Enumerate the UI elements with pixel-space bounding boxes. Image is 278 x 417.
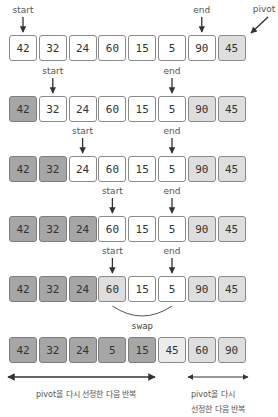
array-cell: 32 <box>39 96 67 122</box>
end-label: end <box>164 66 181 76</box>
swap-label: swap <box>131 321 153 331</box>
array-cell: 45 <box>158 337 186 363</box>
array-cell: 90 <box>188 276 216 302</box>
quicksort-partition-diagram: 423224601559045startendpivot423224601559… <box>0 0 278 417</box>
array-cell: 15 <box>128 96 156 122</box>
array-cell: 90 <box>188 216 216 242</box>
array-cell: 90 <box>218 337 246 363</box>
end-label: end <box>164 126 181 136</box>
array-cell: 24 <box>69 337 97 363</box>
array-cell: 42 <box>9 156 37 182</box>
array-cell: 32 <box>39 156 67 182</box>
array-cell: 90 <box>188 156 216 182</box>
array-cell: 15 <box>128 337 156 363</box>
array-cell: 42 <box>9 96 37 122</box>
start-label: start <box>13 5 34 15</box>
array-cell: 90 <box>188 35 216 61</box>
start-label: start <box>102 186 123 196</box>
end-label: end <box>164 186 181 196</box>
array-cell: 60 <box>98 35 126 61</box>
array-cell: 24 <box>69 96 97 122</box>
array-cell: 15 <box>128 276 156 302</box>
array-cell: 24 <box>69 156 97 182</box>
array-cell: 32 <box>39 35 67 61</box>
array-cell: 5 <box>158 156 186 182</box>
start-label: start <box>102 246 123 256</box>
array-cell: 5 <box>158 276 186 302</box>
array-cell: 45 <box>218 35 246 61</box>
array-cell: 24 <box>69 35 97 61</box>
array-cell: 24 <box>69 276 97 302</box>
array-cell: 45 <box>218 276 246 302</box>
array-cell: 42 <box>9 216 37 242</box>
array-cell: 5 <box>98 337 126 363</box>
array-cell: 5 <box>158 96 186 122</box>
array-cell: 24 <box>69 216 97 242</box>
array-cell: 45 <box>218 156 246 182</box>
array-cell: 45 <box>218 96 246 122</box>
array-cell: 32 <box>39 216 67 242</box>
array-cell: 15 <box>128 216 156 242</box>
right-repeat-note-line1: pivot을 다시 <box>191 387 235 402</box>
array-cell: 42 <box>9 276 37 302</box>
array-cell: 42 <box>9 35 37 61</box>
swap-arc-icon <box>112 306 172 316</box>
end-label: end <box>164 246 181 256</box>
array-cell: 42 <box>9 337 37 363</box>
array-cell: 45 <box>218 216 246 242</box>
start-label: start <box>42 66 63 76</box>
left-repeat-note: pivot을 다시 선정한 다음 반복 <box>36 387 136 402</box>
end-label: end <box>193 5 210 15</box>
array-cell: 32 <box>39 276 67 302</box>
array-cell: 60 <box>188 337 216 363</box>
pivot-label: pivot <box>253 4 276 14</box>
pivot-arrow-icon <box>251 17 268 33</box>
array-cell: 60 <box>98 96 126 122</box>
array-cell: 5 <box>158 35 186 61</box>
array-cell: 90 <box>188 96 216 122</box>
array-cell: 15 <box>128 35 156 61</box>
start-label: start <box>72 126 93 136</box>
array-cell: 60 <box>98 276 126 302</box>
array-cell: 60 <box>98 216 126 242</box>
array-cell: 32 <box>39 337 67 363</box>
array-cell: 5 <box>158 216 186 242</box>
right-repeat-note-line2: 선정한 다음 반복 <box>191 402 245 417</box>
array-cell: 15 <box>128 156 156 182</box>
array-cell: 60 <box>98 156 126 182</box>
